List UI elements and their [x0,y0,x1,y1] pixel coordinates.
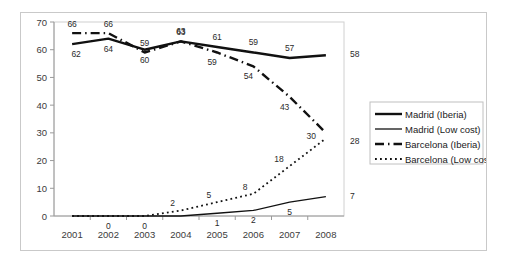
data-label: 1 [215,218,220,228]
data-label: 57 [285,43,295,53]
data-label: 59 [140,38,150,48]
x-tick-label: 2008 [315,229,336,240]
data-label: 28 [350,136,360,146]
data-label: 0 [142,221,147,231]
data-label: 66 [67,19,77,29]
chart-figure: 0102030405060702001200220032004200520062… [20,12,487,251]
line-chart: 0102030405060702001200220032004200520062… [21,13,486,250]
data-label: 5 [206,190,211,200]
y-tick-label: 50 [36,72,47,83]
x-tick-label: 2004 [170,229,191,240]
data-label: 60 [140,55,150,65]
data-label: 8 [243,182,248,192]
data-label: 7 [350,191,355,201]
series-line-3 [72,138,326,216]
legend-item-label: Barcelona (Low cost) [405,154,486,165]
y-tick-label: 40 [36,100,47,111]
plot-area [54,22,344,216]
legend-item-label: Madrid (Low cost) [405,124,481,135]
legend-item-label: Madrid (Iberia) [405,109,467,120]
y-tick-label: 30 [36,127,47,138]
data-label: 18 [274,154,284,164]
y-tick-label: 0 [42,211,47,222]
data-label: 64 [104,44,114,54]
data-label: 54 [244,71,254,81]
data-label: 61 [212,32,222,42]
data-label: 30 [306,131,316,141]
data-label: 5 [287,207,292,217]
x-tick-label: 2005 [207,229,228,240]
legend-item-label: Barcelona (Iberia) [405,139,481,150]
data-label: 0 [106,221,111,231]
y-tick-label: 60 [36,44,47,55]
x-tick-label: 2006 [243,229,264,240]
x-tick-label: 2001 [62,229,83,240]
data-label: 59 [207,57,217,67]
y-tick-label: 20 [36,155,47,166]
data-label: 2 [170,198,175,208]
data-label: 66 [104,19,114,29]
data-label: 2 [251,215,256,225]
data-label: 43 [280,102,290,112]
data-label: 58 [350,49,360,59]
data-label: 59 [249,37,259,47]
x-tick-label: 2007 [279,229,300,240]
data-label: 62 [71,49,81,59]
data-label: 63 [176,27,186,37]
y-tick-label: 10 [36,183,47,194]
y-tick-label: 70 [36,17,47,28]
